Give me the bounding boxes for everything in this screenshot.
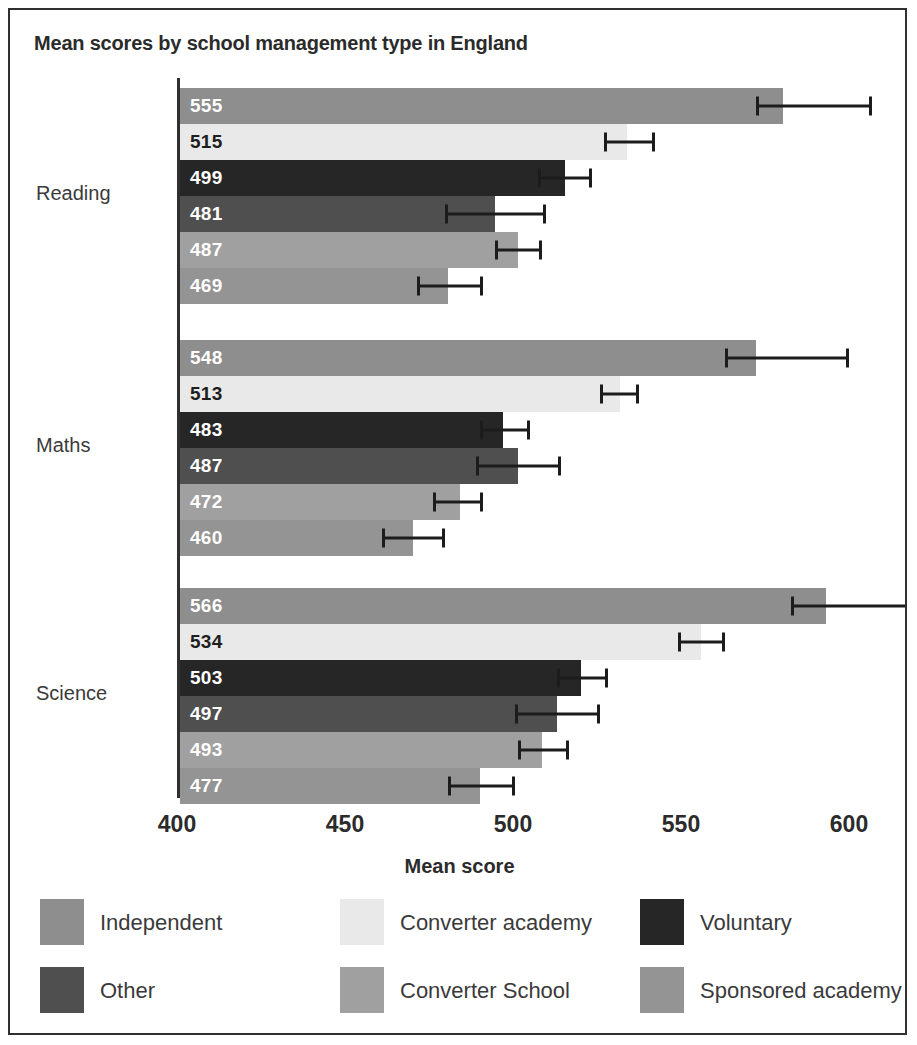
error-bar-cap-low <box>495 241 498 260</box>
bar-converter-school[interactable] <box>180 732 542 768</box>
bar-row[interactable]: 487 <box>180 232 907 268</box>
bar-voluntary[interactable] <box>180 160 565 196</box>
error-bar-line <box>417 285 483 288</box>
x-axis-ticks: 400450500550600 <box>10 798 907 844</box>
error-bar-cap-high <box>512 777 515 796</box>
bar-independent[interactable] <box>180 340 756 376</box>
error-bar-line <box>495 249 542 252</box>
error-bar <box>382 520 444 556</box>
error-bar-cap-low <box>515 705 518 724</box>
bar-value-label: 483 <box>190 419 223 441</box>
legend-swatch <box>340 967 384 1013</box>
error-bar-line <box>604 141 655 144</box>
bar-converter-academy[interactable] <box>180 624 701 660</box>
bar-group: Reading555515499481487469 <box>10 88 907 304</box>
bar-row[interactable]: 515 <box>180 124 907 160</box>
legend-swatch <box>40 899 84 945</box>
bar-row[interactable]: 460 <box>180 520 907 556</box>
bar-row[interactable]: 469 <box>180 268 907 304</box>
bar-row[interactable]: 493 <box>180 732 907 768</box>
error-bar-cap-high <box>566 741 569 760</box>
bar-other[interactable] <box>180 696 557 732</box>
error-bar-cap-high <box>636 385 639 404</box>
bar-row[interactable]: 472 <box>180 484 907 520</box>
legend-label: Converter academy <box>400 910 592 936</box>
category-label-reading: Reading <box>36 182 168 205</box>
bar-other[interactable] <box>180 448 518 484</box>
legend-swatch <box>340 899 384 945</box>
bar-value-label: 499 <box>190 167 223 189</box>
bar-row[interactable]: 497 <box>180 696 907 732</box>
error-bar-cap-low <box>538 169 541 188</box>
error-bar <box>604 124 655 160</box>
bar-independent[interactable] <box>180 588 826 624</box>
bar-value-label: 534 <box>190 631 223 653</box>
error-bar-cap-high <box>539 241 542 260</box>
legend-label: Other <box>100 978 155 1004</box>
legend-swatch <box>640 899 684 945</box>
category-label-science: Science <box>36 682 168 705</box>
bar-row[interactable]: 481 <box>180 196 907 232</box>
bar-value-label: 513 <box>190 383 223 405</box>
error-bar-line <box>518 749 569 752</box>
bar-value-label: 481 <box>190 203 223 225</box>
error-bar-cap-high <box>442 529 445 548</box>
error-bar-line <box>476 465 562 468</box>
bar-value-label: 566 <box>190 595 223 617</box>
bar-row[interactable]: 566 <box>180 588 907 624</box>
error-bar-cap-low <box>480 421 483 440</box>
bar-value-label: 487 <box>190 239 223 261</box>
x-tick-label: 550 <box>662 811 700 838</box>
legend-label: Independent <box>100 910 222 936</box>
bar-converter-academy[interactable] <box>180 376 620 412</box>
legend-swatch <box>40 967 84 1013</box>
error-bar-cap-low <box>382 529 385 548</box>
bar-row[interactable]: 499 <box>180 160 907 196</box>
error-bar <box>756 88 873 124</box>
error-bar-cap-low <box>476 457 479 476</box>
legend-label: Voluntary <box>700 910 792 936</box>
error-bar <box>678 624 725 660</box>
bar-row[interactable]: 534 <box>180 624 907 660</box>
bar-value-label: 497 <box>190 703 223 725</box>
error-bar-line <box>382 537 444 540</box>
error-bar <box>433 484 484 520</box>
bar-row[interactable]: 513 <box>180 376 907 412</box>
error-bar-cap-low <box>756 97 759 116</box>
bar-converter-school[interactable] <box>180 232 518 268</box>
error-bar-cap-high <box>869 97 872 116</box>
error-bar <box>557 660 608 696</box>
error-bar-cap-low <box>600 385 603 404</box>
bar-row[interactable]: 503 <box>180 660 907 696</box>
error-bar-line <box>445 213 546 216</box>
error-bar-line <box>433 501 484 504</box>
bar-row[interactable]: 487 <box>180 448 907 484</box>
x-tick-label: 450 <box>326 811 364 838</box>
bar-row[interactable]: 548 <box>180 340 907 376</box>
error-bar-cap-high <box>543 205 546 224</box>
error-bar <box>445 196 546 232</box>
legend-row: IndependentConverter academyVoluntary <box>40 895 900 951</box>
error-bar <box>725 340 849 376</box>
bar-group: Science566534503497493477 <box>10 588 907 804</box>
bar-value-label: 515 <box>190 131 223 153</box>
bar-value-label: 548 <box>190 347 223 369</box>
bar-row[interactable]: 483 <box>180 412 907 448</box>
bar-voluntary[interactable] <box>180 660 581 696</box>
bar-value-label: 487 <box>190 455 223 477</box>
bar-converter-academy[interactable] <box>180 124 627 160</box>
error-bar <box>518 732 569 768</box>
error-bar-cap-high <box>480 493 483 512</box>
error-bar-cap-low <box>433 493 436 512</box>
bar-row[interactable]: 555 <box>180 88 907 124</box>
bar-voluntary[interactable] <box>180 412 503 448</box>
error-bar-cap-low <box>791 597 794 616</box>
x-tick-label: 400 <box>158 811 196 838</box>
error-bar <box>480 412 531 448</box>
error-bar-cap-low <box>604 133 607 152</box>
bar-value-label: 460 <box>190 527 223 549</box>
chart-frame: Mean scores by school management type in… <box>8 8 907 1035</box>
error-bar <box>600 376 639 412</box>
x-tick-label: 600 <box>830 811 868 838</box>
bar-independent[interactable] <box>180 88 783 124</box>
